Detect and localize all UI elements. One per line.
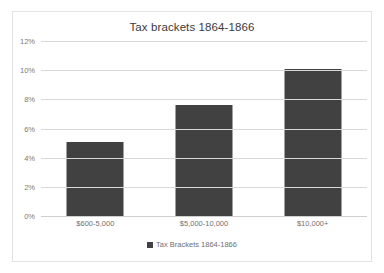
x-axis-tick-label: $600-5,000 bbox=[76, 219, 114, 228]
bar[interactable] bbox=[284, 69, 341, 216]
y-axis-tick-label: 6% bbox=[24, 124, 35, 133]
x-axis-tick-label: $10,000+ bbox=[297, 219, 329, 228]
gridline bbox=[41, 41, 367, 42]
y-axis-tick-label: 12% bbox=[20, 37, 35, 46]
bar[interactable] bbox=[175, 105, 232, 216]
y-axis-tick-label: 10% bbox=[20, 66, 35, 75]
x-axis-tick-label: $5,000-10,000 bbox=[180, 219, 228, 228]
x-axis-labels: $600-5,000$5,000-10,000$10,000+ bbox=[41, 219, 367, 233]
gridline bbox=[41, 70, 367, 71]
chart-legend: Tax Brackets 1864-1866 bbox=[13, 240, 371, 249]
bar[interactable] bbox=[67, 142, 124, 216]
plot-area: 0%2%4%6%8%10%12% bbox=[41, 41, 367, 216]
y-axis-tick-label: 8% bbox=[24, 95, 35, 104]
gridline bbox=[41, 187, 367, 188]
legend-swatch-icon bbox=[147, 242, 153, 248]
y-axis-tick-label: 0% bbox=[24, 212, 35, 221]
y-axis-tick-label: 2% bbox=[24, 182, 35, 191]
y-axis-tick-label: 4% bbox=[24, 153, 35, 162]
chart-title: Tax brackets 1864-1866 bbox=[13, 21, 371, 33]
chart-frame: Tax brackets 1864-1866 0%2%4%6%8%10%12% … bbox=[12, 11, 372, 262]
gridline bbox=[41, 216, 367, 217]
gridline bbox=[41, 129, 367, 130]
gridline bbox=[41, 99, 367, 100]
gridline bbox=[41, 158, 367, 159]
legend-item-label: Tax Brackets 1864-1866 bbox=[156, 240, 237, 249]
